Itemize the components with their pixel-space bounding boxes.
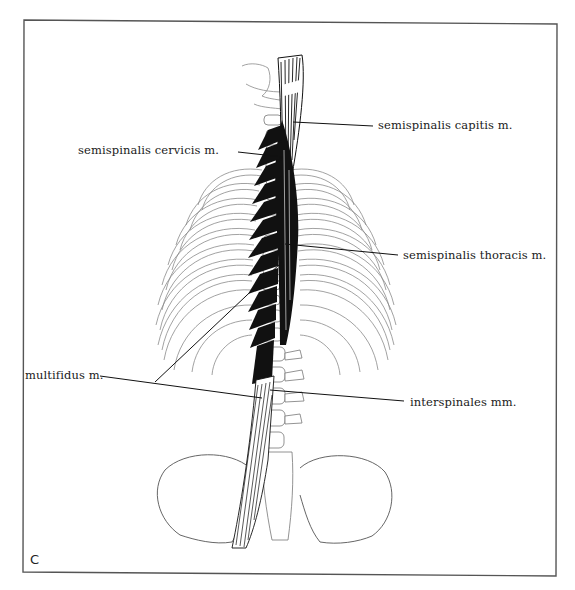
label-semispinalis-capitis: semispinalis capitis m. (378, 118, 512, 132)
leader-semispinalis-capitis (293, 122, 373, 126)
lumbar-multifidus-muscle (232, 376, 274, 548)
leader-multifidus-lower (100, 376, 262, 398)
label-multifidus: multifidus m. (25, 368, 103, 382)
anatomy-illustration (0, 0, 575, 590)
leader-lines (100, 122, 404, 401)
label-semispinalis-cervicis: semispinalis cervicis m. (78, 143, 219, 157)
label-interspinales: interspinales mm. (410, 395, 516, 409)
label-semispinalis-thoracis: semispinalis thoracis m. (403, 248, 546, 262)
panel-letter: C (30, 552, 39, 567)
leader-semispinalis-thoracis (285, 244, 398, 255)
